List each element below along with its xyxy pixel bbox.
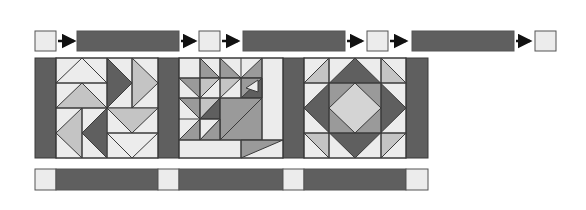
bottom-sashing-2: [179, 169, 283, 190]
block-row: [35, 58, 428, 158]
bottom-cornerstone-1: [35, 169, 56, 190]
top-assembly-row: [35, 31, 556, 51]
bottom-cornerstone-3: [283, 169, 304, 190]
bottom-cornerstone-2: [158, 169, 179, 190]
vertical-sashing-1: [35, 58, 56, 158]
bottom-sashing-1: [56, 169, 158, 190]
basket-block: [179, 58, 283, 158]
vertical-sashing-2: [158, 58, 179, 158]
quilt-diagram: [0, 0, 586, 210]
sashing-strip-3: [412, 31, 514, 51]
sashing-strip-2: [243, 31, 345, 51]
flying-geese-block: [56, 58, 158, 158]
cornerstone-4: [535, 31, 556, 51]
sashing-strip-1: [77, 31, 179, 51]
cornerstone-1: [35, 31, 56, 51]
cornerstone-2: [199, 31, 220, 51]
vertical-sashing-3: [283, 58, 304, 158]
vertical-sashing-4: [406, 58, 428, 158]
square-in-square-block: [304, 58, 406, 158]
bottom-sashing-row: [35, 169, 428, 190]
bottom-cornerstone-4: [406, 169, 428, 190]
cornerstone-3: [367, 31, 388, 51]
bottom-sashing-3: [304, 169, 406, 190]
